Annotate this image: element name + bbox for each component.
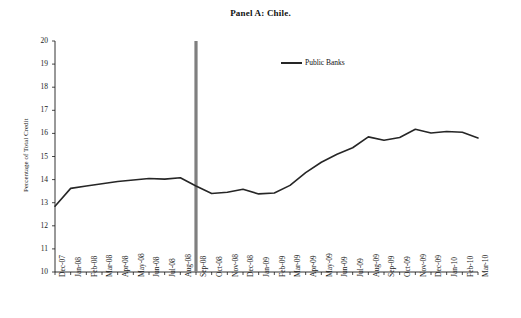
x-tick-label: Sep-08 [199, 256, 208, 277]
x-tick-label: Feb-09 [278, 256, 287, 277]
x-tick-label: Mar-09 [293, 255, 302, 277]
x-tick-label: Jan-08 [74, 257, 83, 277]
x-tick-label: Feb-08 [90, 256, 99, 277]
series-line-public-banks [55, 129, 478, 206]
x-tick-label: Sep-09 [387, 256, 396, 277]
y-tick-label: 15 [28, 152, 48, 161]
y-tick-label: 14 [28, 175, 48, 184]
legend-line-swatch [281, 62, 302, 64]
x-tick-label: Jan-10 [450, 257, 459, 277]
x-tick-label: Dec-08 [246, 255, 255, 277]
x-tick-label: Apr-08 [121, 255, 130, 277]
y-tick-label: 17 [28, 105, 48, 114]
y-tick-label: 10 [28, 267, 48, 276]
x-tick-label: Nov-08 [231, 254, 240, 277]
x-tick-label: May-09 [325, 253, 334, 277]
x-tick-label: May-08 [137, 253, 146, 277]
x-tick-label: Oct-08 [215, 256, 224, 277]
x-tick-label: Aug-09 [372, 254, 381, 277]
legend-label-public-banks: Public Banks [305, 58, 345, 67]
x-tick-label: Aug-08 [184, 254, 193, 277]
x-tick-label: Jul-09 [356, 258, 365, 277]
x-tick-label: Dec-07 [58, 255, 67, 277]
y-tick-label: 12 [28, 221, 48, 230]
y-tick-label: 18 [28, 82, 48, 91]
y-tick-label: 13 [28, 198, 48, 207]
x-tick-label: Mar-10 [481, 255, 490, 277]
x-tick-label: Nov-09 [419, 254, 428, 277]
y-tick-label: 16 [28, 128, 48, 137]
x-tick-label: Oct-09 [403, 256, 412, 277]
x-tick-label: Apr-09 [309, 255, 318, 277]
x-tick-label: Feb-10 [466, 256, 475, 277]
chart-page: Panel A: Chile. Percentage of Total Cred… [0, 0, 521, 318]
y-tick-label: 19 [28, 59, 48, 68]
x-tick-label: Dec-09 [434, 255, 443, 277]
x-tick-label: Jun-08 [152, 257, 161, 277]
x-tick-label: Mar-08 [105, 255, 114, 277]
x-tick-label: Jul-08 [168, 258, 177, 277]
x-tick-label: Jan-09 [262, 257, 271, 277]
y-tick-label: 20 [28, 36, 48, 45]
y-tick-label: 11 [28, 244, 48, 253]
chart-legend: Public Banks [281, 58, 345, 67]
x-tick-label: Jun-09 [340, 257, 349, 277]
